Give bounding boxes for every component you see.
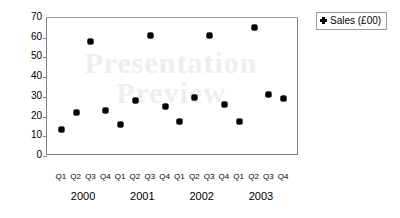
data-point (132, 97, 139, 104)
diamond-marker-icon (321, 18, 326, 23)
data-point (176, 118, 183, 125)
y-axis-tick-label: 0 (20, 150, 42, 160)
data-point (87, 38, 94, 45)
data-point (206, 32, 213, 39)
y-axis-tick-mark (43, 77, 47, 78)
data-point (250, 24, 257, 31)
x-axis-quarter-labels: Q1Q2Q3Q4Q1Q2Q3Q4Q1Q2Q3Q4Q1Q2Q3Q4 (46, 172, 298, 184)
data-point (280, 95, 287, 102)
y-axis-tick-label: 50 (20, 51, 42, 61)
y-axis-tick-label: 10 (20, 130, 42, 140)
x-axis-year-labels: 2000200120022003 (46, 190, 298, 204)
chart-legend: Sales (£00) (316, 12, 387, 30)
y-axis-tick-mark (43, 38, 47, 39)
legend-entry-label: Sales (£00) (330, 15, 381, 26)
data-point (147, 32, 154, 39)
x-axis-year-label: 2000 (63, 190, 103, 202)
data-point (117, 121, 124, 128)
data-point (236, 117, 243, 124)
y-axis-tick-mark (43, 57, 47, 58)
x-axis-year-label: 2003 (241, 190, 281, 202)
data-point (191, 94, 198, 101)
scatter-chart: Presentation Preview 010203040506070 Sal… (0, 0, 400, 218)
y-axis-tick-label: 60 (20, 32, 42, 42)
y-axis-tick-mark (43, 156, 47, 157)
x-axis-year-label: 2001 (122, 190, 162, 202)
data-point (162, 103, 169, 110)
x-axis-year-label: 2002 (182, 190, 222, 202)
data-point (221, 101, 228, 108)
y-axis-tick-label: 30 (20, 91, 42, 101)
data-point (58, 126, 65, 133)
data-point (102, 107, 109, 114)
data-point (265, 91, 272, 98)
y-axis-tick-label: 40 (20, 71, 42, 81)
y-axis-tick-mark (43, 117, 47, 118)
y-axis-tick-labels: 010203040506070 (14, 17, 42, 155)
x-axis-quarter-label: Q4 (274, 172, 292, 182)
y-axis-tick-label: 20 (20, 111, 42, 121)
y-axis-tick-mark (43, 97, 47, 98)
y-axis-tick-mark (43, 136, 47, 137)
plot-area (46, 17, 298, 155)
data-point (73, 109, 80, 116)
y-axis-tick-label: 70 (20, 12, 42, 22)
